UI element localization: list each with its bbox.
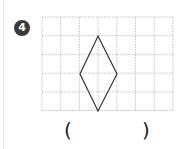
grid-lines [42,17,173,111]
answer-paren-open: ( [64,119,72,141]
answer-paren-close: ) [142,119,150,141]
answer-blank[interactable] [76,119,138,141]
